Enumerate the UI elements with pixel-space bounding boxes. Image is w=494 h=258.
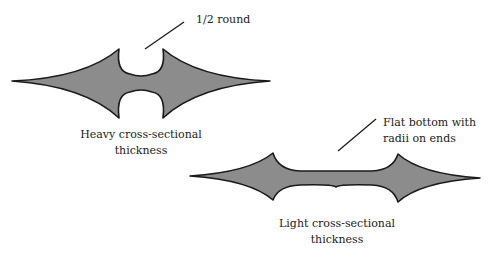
light-cross-section-shape bbox=[190, 153, 480, 202]
flat-bottom-leader-line bbox=[338, 119, 376, 151]
heavy-cross-section-shape bbox=[12, 49, 270, 118]
flat-bottom-callout-line2: radii on ends bbox=[383, 131, 456, 146]
half-round-callout-label: 1/2 round bbox=[196, 12, 250, 27]
half-round-leader-line bbox=[145, 22, 184, 49]
heavy-caption-line1: Heavy cross-sectional bbox=[80, 127, 202, 142]
light-caption-line1: Light cross-sectional bbox=[279, 216, 395, 231]
flat-bottom-callout-line1: Flat bottom with bbox=[383, 115, 476, 130]
heavy-caption-line2: thickness bbox=[115, 143, 168, 158]
light-caption-line2: thickness bbox=[311, 232, 364, 247]
